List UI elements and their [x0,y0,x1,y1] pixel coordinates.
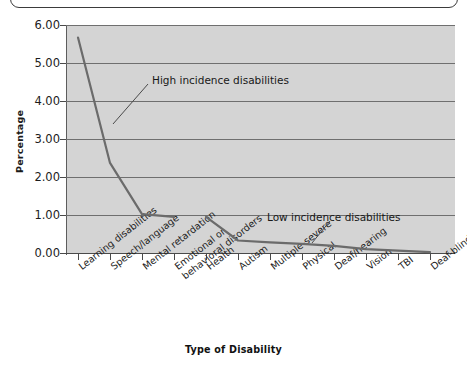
y-axis-title: Percentage [14,110,25,173]
x-tick-mark [142,254,143,260]
x-axis-title: Type of Disability [0,344,467,355]
x-tick-label: Deaf-blindness [428,262,436,272]
y-tick-mark [60,101,66,102]
y-tick-label: 5.00 [18,56,60,70]
gridline [66,177,455,178]
x-tick-label: Multiple-severe [268,262,276,272]
x-tick-label: Physical [300,262,308,272]
x-tick-label: TBI [396,262,404,272]
x-tick-mark [78,254,79,260]
annotation-high-incidence: High incidence disabilities [152,74,289,86]
y-tick-label: 1.00 [18,208,60,222]
x-tick-label: Learning disabilities [76,262,84,272]
x-tick-mark [430,254,431,260]
y-tick-label: 6.00 [18,18,60,32]
gridline [66,25,455,26]
x-tick-mark [302,254,303,260]
y-tick-mark [60,139,66,140]
x-tick-label: Autism [236,262,244,272]
gridline [66,101,455,102]
x-tick-label: Health [204,262,212,272]
x-tick-label: Emotional or behavioral disorders [172,262,188,282]
x-tick-label: Mental retardation [140,262,148,272]
gridline [66,63,455,64]
x-tick-label: Deaf/hearing [332,262,340,272]
y-tick-mark [60,177,66,178]
x-tick-mark [110,254,111,260]
y-tick-mark [60,25,66,26]
y-tick-label: 4.00 [18,94,60,108]
annotation-low-incidence: Low incidence disabilities [267,211,401,223]
x-tick-mark [270,254,271,260]
x-tick-mark [238,254,239,260]
y-axis [66,25,67,255]
y-tick-label: 0.00 [18,246,60,260]
x-tick-mark [334,254,335,260]
x-tick-label: Vision [364,262,372,272]
chart-figure: 0.001.002.003.004.005.006.00 Learning di… [0,0,467,367]
x-tick-mark [366,254,367,260]
y-tick-mark [60,63,66,64]
x-tick-label: Speech/language [108,262,116,272]
gridline [66,139,455,140]
y-tick-mark [60,215,66,216]
y-tick-mark [60,253,66,254]
cropped-header-box [10,0,458,8]
x-tick-mark [174,254,175,260]
x-tick-mark [398,254,399,260]
